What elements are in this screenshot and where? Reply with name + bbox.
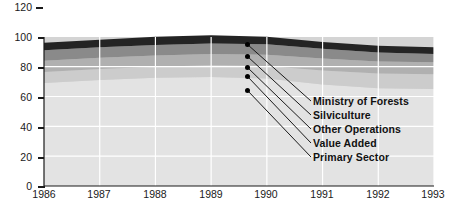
annotation-marker-ministry-of-forests [245, 42, 250, 47]
x-axis-label-1986: 1986 [22, 189, 66, 200]
legend-label-ministry-of-forests: Ministry of Forests [313, 96, 409, 107]
x-axis-label-1990: 1990 [244, 189, 288, 200]
annotation-marker-value-added [245, 74, 250, 79]
x-axis-label-1993: 1993 [411, 189, 455, 200]
legend-label-primary-sector: Primary Sector [313, 152, 389, 163]
legend-label-other-operations: Other Operations [313, 124, 401, 135]
x-axis-label-1987: 1987 [77, 189, 121, 200]
annotation-marker-silviculture [245, 54, 250, 59]
legend-label-silviculture: Silviculture [313, 110, 371, 121]
annotation-marker-primary-sector [245, 88, 250, 93]
x-axis-label-1992: 1992 [356, 189, 400, 200]
x-axis-label-1991: 1991 [300, 189, 344, 200]
legend-label-value-added: Value Added [313, 138, 377, 149]
stacked-area-chart: 120 100 80 60 40 20 0 1986 1987 1988 198… [0, 0, 458, 204]
x-axis-label-1988: 1988 [133, 189, 177, 200]
x-axis-label-1989: 1989 [189, 189, 233, 200]
annotation-marker-other-operations [245, 65, 250, 70]
